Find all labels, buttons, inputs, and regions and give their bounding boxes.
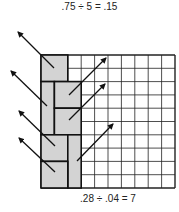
equation-top: .75 ÷ 5 = .15	[0, 1, 179, 12]
equation-bottom: .28 ÷ .04 = 7	[58, 193, 158, 204]
division-diagram	[0, 0, 179, 212]
shaded-block	[54, 82, 81, 109]
shaded-block	[41, 82, 54, 135]
shaded-block	[68, 135, 81, 188]
shaded-block	[41, 135, 68, 162]
arrow-icon	[18, 32, 54, 68]
shaded-block	[41, 161, 68, 188]
